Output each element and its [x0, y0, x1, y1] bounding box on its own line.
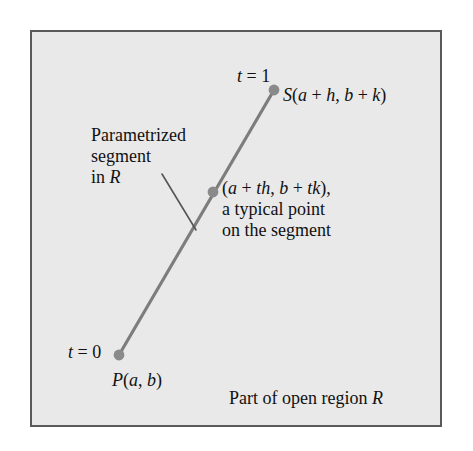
point-marker-p: [114, 350, 125, 361]
label-typical-point-line3: on the segment: [222, 220, 331, 240]
label-point-p: P(a, b): [112, 370, 162, 391]
label-region-caption: Part of open region R: [229, 388, 383, 409]
label-t-equals-one: t = 1: [237, 66, 270, 87]
figure-container: t = 1 S(a + h, b + k) Parametrizedsegmen…: [0, 0, 473, 451]
label-t-equals-zero: t = 0: [68, 342, 101, 363]
label-parametrized-line1: Parametrized: [91, 125, 186, 145]
point-marker-typical: [208, 187, 219, 198]
point-marker-s: [269, 85, 280, 96]
label-typical-point: (a + th, b + tk),a typical pointon the s…: [222, 178, 331, 241]
label-parametrized-segment: Parametrizedsegmentin R: [91, 125, 186, 188]
label-point-s: S(a + h, b + k): [283, 85, 386, 106]
label-parametrized-line2: segment: [91, 146, 151, 166]
label-typical-point-line2: a typical point: [222, 199, 325, 219]
